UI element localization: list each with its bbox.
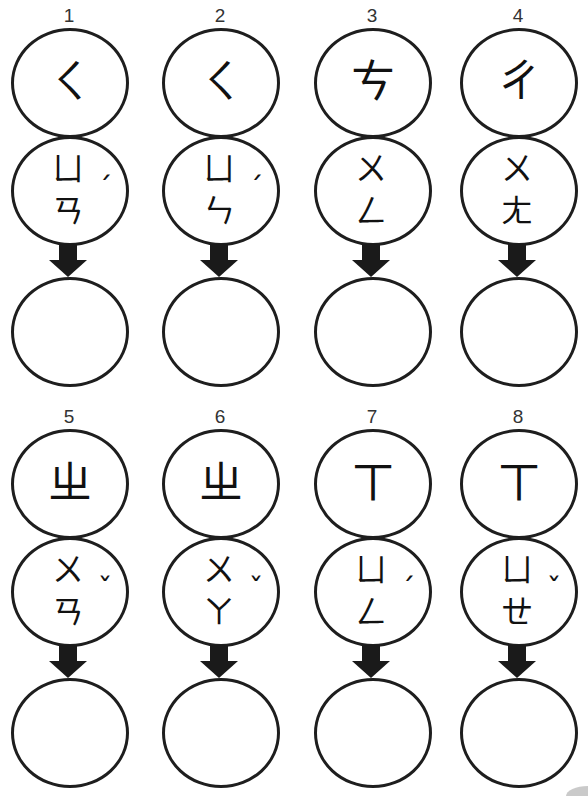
- medial-vowel: ㄩ: [199, 149, 239, 189]
- tone-mark: ˇ: [539, 572, 569, 608]
- final-vowel: ㄣ: [199, 191, 239, 231]
- exercise-number: 4: [458, 6, 578, 26]
- medial-vowel: ㄩ: [351, 550, 391, 590]
- exercise-number: 6: [160, 407, 280, 427]
- tone-mark: ˊ: [393, 572, 423, 608]
- initial-consonant: ㄔ: [463, 58, 575, 106]
- answer-circle[interactable]: [162, 678, 280, 788]
- initial-consonant: ㄑ: [165, 58, 277, 106]
- exercise-number: 1: [9, 6, 129, 26]
- final-circle: ㄩ ㄝ ˇ: [460, 537, 578, 647]
- medial-vowel: ㄨ: [351, 149, 391, 189]
- scan-artifact: [566, 786, 588, 796]
- down-arrow-icon: [352, 645, 392, 679]
- final-circle: ㄨ ㄢ ˇ: [11, 537, 129, 647]
- down-arrow-icon: [498, 244, 538, 278]
- exercise-number: 8: [458, 407, 578, 427]
- initial-consonant: ㄑ: [14, 58, 126, 106]
- initial-circle: ㄒ: [314, 429, 432, 539]
- final-circle: ㄩ ㄢ ˊ: [11, 136, 129, 246]
- exercise-number: 3: [312, 6, 432, 26]
- exercise-number: 2: [160, 6, 280, 26]
- tone-mark: ˊ: [90, 171, 120, 207]
- initial-consonant: ㄒ: [463, 459, 575, 507]
- tone-mark: ˊ: [241, 171, 271, 207]
- exercise-number: 7: [312, 407, 432, 427]
- answer-circle[interactable]: [11, 678, 129, 788]
- initial-circle: ㄔ: [460, 28, 578, 138]
- initial-circle: ㄘ: [314, 28, 432, 138]
- initial-circle: ㄓ: [162, 429, 280, 539]
- tone-mark: ˇ: [90, 572, 120, 608]
- answer-circle[interactable]: [314, 277, 432, 387]
- final-circle: ㄨ ㄚ ˇ: [162, 537, 280, 647]
- answer-circle[interactable]: [162, 277, 280, 387]
- medial-vowel: ㄩ: [497, 550, 537, 590]
- down-arrow-icon: [200, 645, 240, 679]
- initial-circle: ㄑ: [162, 28, 280, 138]
- initial-circle: ㄒ: [460, 429, 578, 539]
- down-arrow-icon: [498, 645, 538, 679]
- down-arrow-icon: [200, 244, 240, 278]
- down-arrow-icon: [352, 244, 392, 278]
- final-circle: ㄩ ㄥ ˊ: [314, 537, 432, 647]
- exercise-number: 5: [9, 407, 129, 427]
- final-vowel: ㄝ: [497, 592, 537, 632]
- final-vowel: ㄚ: [199, 592, 239, 632]
- medial-vowel: ㄨ: [48, 550, 88, 590]
- medial-vowel: ㄩ: [48, 149, 88, 189]
- answer-circle[interactable]: [460, 277, 578, 387]
- final-vowel: ㄥ: [351, 592, 391, 632]
- final-circle: ㄩ ㄣ ˊ: [162, 136, 280, 246]
- initial-circle: ㄑ: [11, 28, 129, 138]
- tone-mark: ˇ: [241, 572, 271, 608]
- down-arrow-icon: [49, 645, 89, 679]
- final-vowel: ㄥ: [351, 191, 391, 231]
- answer-circle[interactable]: [314, 678, 432, 788]
- answer-circle[interactable]: [11, 277, 129, 387]
- medial-vowel: ㄨ: [199, 550, 239, 590]
- initial-consonant: ㄘ: [317, 58, 429, 106]
- final-vowel: ㄢ: [48, 592, 88, 632]
- answer-circle[interactable]: [460, 678, 578, 788]
- initial-circle: ㄓ: [11, 429, 129, 539]
- initial-consonant: ㄒ: [317, 459, 429, 507]
- initial-consonant: ㄓ: [165, 459, 277, 507]
- down-arrow-icon: [49, 244, 89, 278]
- final-circle: ㄨ ㄤ: [460, 136, 578, 246]
- final-circle: ㄨ ㄥ: [314, 136, 432, 246]
- final-vowel: ㄤ: [497, 191, 537, 231]
- medial-vowel: ㄨ: [497, 149, 537, 189]
- initial-consonant: ㄓ: [14, 459, 126, 507]
- final-vowel: ㄢ: [48, 191, 88, 231]
